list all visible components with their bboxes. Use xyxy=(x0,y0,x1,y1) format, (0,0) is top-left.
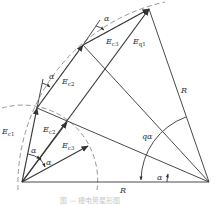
small-dashed-arc xyxy=(2,105,98,190)
figure-caption: 图 — 槽电势星形图 xyxy=(60,196,120,205)
alpha-arc-inner-2 xyxy=(40,159,45,167)
radius-line-top xyxy=(149,9,209,182)
label-R-bottom: R xyxy=(119,186,126,195)
label-Eq1: Eq1 xyxy=(132,37,146,48)
label-Ec1: Ec1 xyxy=(1,127,14,137)
vector-Ec2-outer xyxy=(37,45,83,108)
label-alpha-p2: α xyxy=(104,14,110,23)
label-q-alpha: qα xyxy=(142,132,153,141)
label-alpha-inner-1: α xyxy=(31,146,37,155)
extension-p2 xyxy=(83,20,100,45)
label-R-right: R xyxy=(180,86,187,95)
label-alpha-p1: α xyxy=(49,72,55,81)
node-dot xyxy=(39,158,42,161)
label-Ec2-inner: Ec2 xyxy=(42,125,55,135)
label-alpha-base: α xyxy=(157,173,163,182)
label-alpha-inner-2: α xyxy=(46,158,52,167)
phasor-diagram: Ec1 Ec2 Ec3 Ec2 Ec3 Eq1 R R qα α α α α α… xyxy=(0,0,221,205)
vector-Ec3-outer xyxy=(83,9,149,45)
label-Ec2-outer: Ec2 xyxy=(61,77,74,87)
label-Ec3-inner: Ec3 xyxy=(61,141,75,151)
label-Ec3-outer: Ec3 xyxy=(105,37,119,47)
radius-line-p2 xyxy=(83,45,209,182)
alpha-arc-base xyxy=(167,174,168,182)
q-alpha-arc xyxy=(141,117,186,180)
